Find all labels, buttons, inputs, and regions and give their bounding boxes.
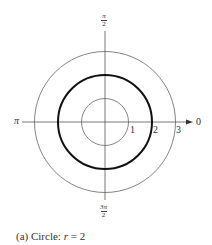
radial-label-2: 2	[153, 125, 158, 135]
label-pi: π	[14, 116, 19, 126]
arrow-right-icon	[186, 120, 193, 125]
label-pi-over-2-numerator: π	[101, 13, 107, 19]
label-zero: 0	[196, 117, 201, 127]
label-3pi-over-2-denominator: 2	[102, 212, 106, 218]
label-3pi-over-2-numerator: 3π	[99, 204, 108, 210]
radial-label-3: 3	[176, 125, 181, 135]
caption-equation: = 2	[68, 230, 85, 242]
label-pi-over-2: π 2	[101, 13, 107, 27]
label-pi-over-2-denominator: 2	[102, 21, 106, 27]
figure-caption: (a) Circle: r = 2	[16, 230, 85, 242]
caption-prefix: (a) Circle:	[16, 230, 64, 242]
radial-label-1: 1	[130, 125, 135, 135]
label-3pi-over-2: 3π 2	[99, 204, 108, 218]
polar-graph: π 2 3π 2 π 0 1 2 3 (a) Circle: r = 2	[0, 0, 212, 245]
